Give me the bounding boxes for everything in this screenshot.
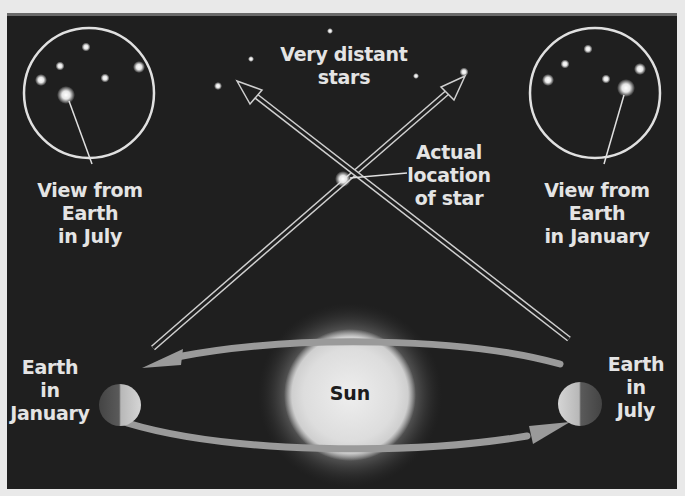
view-circle-july	[24, 28, 154, 164]
sight-line-january	[153, 76, 465, 348]
view-january-label: View from Earth in January	[537, 179, 657, 248]
earth-january-icon	[99, 384, 141, 426]
actual-star-label: Actual location of star	[404, 141, 494, 210]
diagram-panel: Very distant stars Actual location of st…	[7, 13, 677, 489]
sun-label: Sun	[310, 382, 390, 404]
sight-line-july	[237, 81, 569, 339]
view-july-label: View from Earth in July	[35, 179, 145, 248]
view-circle-january	[530, 28, 660, 164]
distant-stars-label: Very distant stars	[279, 43, 409, 89]
earth-july-icon	[558, 382, 602, 426]
earth-july-label: Earth in July	[605, 353, 667, 422]
earth-january-label: Earth in January	[9, 356, 91, 425]
